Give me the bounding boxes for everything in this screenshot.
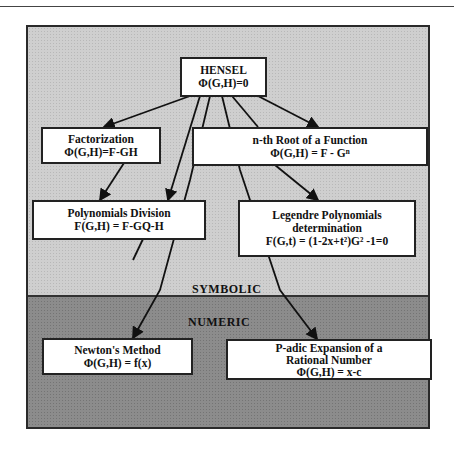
node-subtitle: Rational Number <box>286 354 372 366</box>
node-formula: Φ(G,H)=0 <box>198 77 248 90</box>
node-subtitle: determination <box>292 222 362 235</box>
symbolic-label: SYMBOLIC <box>192 282 261 297</box>
node-title: Legendre Polynomials <box>272 209 381 222</box>
node-polynomials-division: Polynomials Division F(G,H) = F-GQ-H <box>32 200 206 240</box>
node-nth-root: n-th Root of a Function Φ(G,H) = F - Gⁿ <box>192 127 428 166</box>
node-formula: Φ(G,H)=F-GH <box>64 146 137 159</box>
node-title: Polynomials Division <box>67 207 170 220</box>
node-title: P-adic Expansion of a <box>275 342 382 354</box>
node-newton: Newton's Method Φ(G,H) = f(x) <box>42 338 193 375</box>
node-title: Factorization <box>68 133 134 146</box>
node-formula: Φ(G,H) = x-c <box>297 366 362 378</box>
node-hensel: HENSEL Φ(G,H)=0 <box>180 57 267 97</box>
node-title: Newton's Method <box>74 344 161 357</box>
node-legendre: Legendre Polynomials determination F(G,t… <box>238 200 416 257</box>
node-title: HENSEL <box>200 64 247 77</box>
node-factorization: Factorization Φ(G,H)=F-GH <box>41 127 161 164</box>
node-formula: F(G,t) = (1-2x+t²)G² -1=0 <box>266 235 388 248</box>
node-title: n-th Root of a Function <box>252 134 367 147</box>
numeric-label: NUMERIC <box>188 315 250 330</box>
page-rule <box>0 6 454 7</box>
node-formula: F(G,H) = F-GQ-H <box>74 220 163 233</box>
node-formula: Φ(G,H) = f(x) <box>84 357 152 370</box>
node-formula: Φ(G,H) = F - Gⁿ <box>270 147 349 160</box>
node-padic: P-adic Expansion of a Rational Number Φ(… <box>226 339 432 380</box>
